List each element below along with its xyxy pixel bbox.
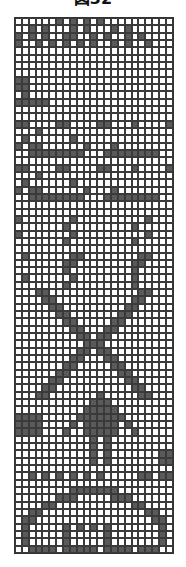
grid-cell [145,194,152,201]
grid-cell [15,91,22,98]
grid-cell [138,531,145,538]
grid-cell [132,121,139,128]
grid-cell [132,40,139,47]
grid-cell [159,370,166,377]
grid-cell [97,187,104,194]
grid-cell [104,216,111,223]
grid-cell [90,370,97,377]
grid-cell [118,509,125,516]
grid-cell [97,216,104,223]
grid-cell [84,538,91,545]
grid-cell [42,406,49,413]
grid-cell [49,282,56,289]
grid-cell [42,340,49,347]
grid-cell [111,55,118,62]
grid-cell [132,231,139,238]
grid-cell [145,487,152,494]
grid-cell [36,172,43,179]
grid-cell [118,340,125,347]
grid-cell [159,414,166,421]
grid-cell [166,91,173,98]
grid-cell [70,546,77,553]
grid-cell [159,509,166,516]
grid-cell [90,99,97,106]
grid-cell [132,414,139,421]
grid-cell [132,194,139,201]
grid-cell [90,318,97,325]
grid-cell [166,304,173,311]
grid-cell [104,392,111,399]
grid-cell [111,47,118,54]
grid-cell [77,106,84,113]
grid-cell [118,487,125,494]
grid-cell [36,128,43,135]
grid-cell [97,238,104,245]
grid-cell [97,414,104,421]
grid-cell [70,377,77,384]
grid-cell [159,487,166,494]
grid-cell [104,47,111,54]
grid-cell [145,516,152,523]
grid-cell [118,40,125,47]
grid-cell [70,509,77,516]
grid-cell [36,55,43,62]
grid-cell [42,194,49,201]
grid-cell [159,253,166,260]
grid-cell [77,296,84,303]
grid-cell [22,84,29,91]
grid-cell [166,267,173,274]
grid-cell [22,33,29,40]
grid-cell [63,480,70,487]
grid-cell [84,524,91,531]
grid-cell [63,274,70,281]
grid-cell [29,143,36,150]
grid-cell [132,18,139,25]
grid-cell [97,209,104,216]
grid-cell [15,128,22,135]
grid-cell [42,187,49,194]
grid-cell [138,267,145,274]
grid-cell [138,421,145,428]
grid-cell [77,135,84,142]
grid-cell [104,399,111,406]
grid-cell [159,406,166,413]
grid-cell [132,47,139,54]
grid-cell [104,318,111,325]
grid-cell [97,340,104,347]
grid-cell [104,69,111,76]
grid-cell [111,150,118,157]
grid-cell [152,33,159,40]
grid-cell [145,69,152,76]
grid-cell [77,62,84,69]
grid-cell [138,392,145,399]
grid-cell [15,296,22,303]
grid-cell [159,546,166,553]
grid-cell [145,399,152,406]
grid-cell [42,274,49,281]
grid-cell [118,121,125,128]
grid-cell [166,113,173,120]
grid-cell [77,216,84,223]
grid-cell [152,201,159,208]
grid-cell [138,55,145,62]
grid-cell [132,267,139,274]
grid-cell [84,465,91,472]
grid-cell [145,377,152,384]
grid-cell [118,362,125,369]
grid-cell [104,143,111,150]
grid-cell [104,77,111,84]
grid-cell [15,113,22,120]
grid-cell [15,546,22,553]
grid-cell [152,392,159,399]
grid-cell [166,135,173,142]
grid-cell [118,69,125,76]
grid-cell [70,238,77,245]
grid-cell [125,135,132,142]
grid-cell [111,143,118,150]
grid-cell [118,289,125,296]
grid-cell [15,399,22,406]
grid-cell [125,370,132,377]
grid-cell [84,370,91,377]
grid-cell [42,326,49,333]
grid-cell [56,546,63,553]
